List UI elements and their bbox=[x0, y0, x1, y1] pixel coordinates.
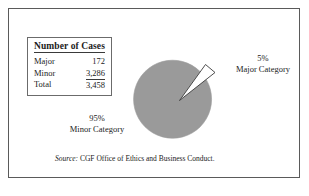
table-row: Major 172 bbox=[34, 55, 105, 67]
table-title: Number of Cases bbox=[34, 41, 105, 53]
pie-label-minor-category: Minor Category bbox=[51, 124, 143, 135]
row-value-major: 172 bbox=[92, 56, 105, 67]
pie-label-major-percent: 5% bbox=[225, 53, 301, 64]
number-of-cases-table: Number of Cases Major 172 Minor 3,286 To… bbox=[27, 37, 112, 96]
row-label-minor: Minor bbox=[34, 68, 55, 79]
pie-chart-svg bbox=[129, 47, 229, 151]
pie-label-major-category: Major Category bbox=[225, 64, 301, 75]
source-note: Source: CGF Office of Ethics and Busines… bbox=[55, 154, 215, 163]
pie-label-minor: 95% Minor Category bbox=[51, 113, 143, 135]
table-row: Minor 3,286 bbox=[34, 67, 105, 79]
figure-frame: Number of Cases Major 172 Minor 3,286 To… bbox=[8, 8, 300, 178]
pie-label-minor-percent: 95% bbox=[51, 113, 143, 124]
source-text: CGF Office of Ethics and Business Conduc… bbox=[80, 154, 215, 163]
row-value-minor: 3,286 bbox=[86, 68, 105, 79]
table-row: Total 3,458 bbox=[34, 78, 105, 91]
row-label-total: Total bbox=[34, 79, 51, 91]
source-prefix: Source: bbox=[55, 154, 78, 163]
row-label-major: Major bbox=[34, 56, 55, 67]
pie-label-major: 5% Major Category bbox=[225, 53, 301, 75]
table-body: Major 172 Minor 3,286 Total 3,458 bbox=[34, 53, 105, 91]
row-value-total: 3,458 bbox=[86, 79, 105, 91]
pie-chart bbox=[129, 47, 229, 151]
